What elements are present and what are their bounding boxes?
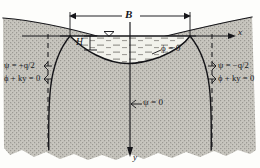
diagram-svg [0, 0, 260, 168]
phi-zero-surface-label: ϕ = 0 [161, 44, 180, 53]
phi-right-label: ϕ + ky = 0 [218, 74, 254, 83]
psi-zero-center-label: ψ = 0 [143, 98, 163, 107]
y-axis-label: y [133, 153, 137, 162]
dimension-label-B: B [125, 9, 132, 20]
x-axis-label: x [238, 28, 242, 37]
dimension-label-H: H [76, 38, 83, 48]
figure-canvas: B H x y ϕ = 0 ψ = 0 ψ = +q/2 ϕ + ky = 0 … [0, 0, 260, 168]
phi-left-label: ϕ + ky = 0 [4, 74, 40, 83]
psi-right-label: ψ = −q/2 [218, 61, 249, 70]
psi-left-label: ψ = +q/2 [4, 61, 35, 70]
